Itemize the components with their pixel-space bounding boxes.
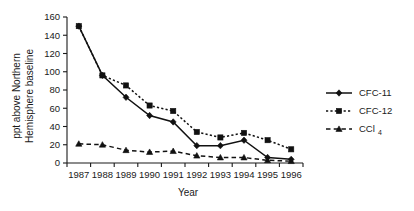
x-tick-label: 1994 [233,169,254,180]
y-axis-ticks: 020406080100120140160 [44,11,67,168]
y-tick-label: 100 [44,66,60,77]
x-tick-label: 1988 [92,169,113,180]
legend-label: CFC-12 [359,105,392,116]
y-tick-label: 0 [55,157,60,168]
data-point-marker [217,142,223,148]
data-point-marker [336,90,342,96]
x-tick-label: 1991 [163,169,184,180]
data-point-marker [241,130,246,135]
series-line [79,26,291,159]
data-point-marker [76,24,81,29]
y-tick-label: 20 [49,139,60,150]
y-axis-title-line1: ppt above Northern [11,53,22,139]
data-point-marker [99,142,105,148]
x-tick-label: 1996 [281,169,302,180]
legend-item-cfc-12: CFC-12 [326,105,392,116]
x-tick-label: 1989 [115,169,136,180]
y-axis-title-line2: Hemisphere baseline [24,49,35,143]
x-tick-label: 1987 [68,169,89,180]
series-layer [76,23,295,164]
y-tick-label: 60 [49,103,60,114]
data-point-marker [147,103,152,108]
x-tick-label: 1990 [139,169,160,180]
data-point-marker [171,108,176,113]
series-cfc-11 [76,23,294,163]
x-axis-title: Year [178,187,199,198]
chart-legend: CFC-11CFC-12CCl4 [326,87,392,136]
legend-item-ccl: CCl4 [326,123,382,136]
data-point-marker [265,138,270,143]
data-point-marker [218,135,223,140]
data-point-marker [194,129,199,134]
data-point-marker [100,73,105,78]
x-axis-ticks: 1987198819891990199119921993199419951996 [67,163,303,180]
y-tick-label: 40 [49,121,60,132]
series-line [79,144,291,161]
x-tick-label: 1992 [186,169,207,180]
x-tick-label: 1995 [257,169,278,180]
data-point-marker [336,108,341,113]
x-tick-label: 1993 [210,169,231,180]
data-point-marker [123,83,128,88]
series-cfc-12 [76,24,294,152]
legend-label-subscript: 4 [378,129,382,136]
legend-item-cfc-11: CFC-11 [326,87,392,98]
line-chart: 020406080100120140160 198719881989199019… [0,0,414,211]
y-tick-label: 160 [44,11,60,22]
chart-figure: 020406080100120140160 198719881989199019… [0,0,414,211]
data-point-marker [289,147,294,152]
y-tick-label: 120 [44,48,60,59]
y-tick-label: 80 [49,84,60,95]
y-tick-label: 140 [44,30,60,41]
series-line [79,26,291,149]
legend-label: CFC-11 [359,87,392,98]
legend-label: CCl [359,123,375,134]
